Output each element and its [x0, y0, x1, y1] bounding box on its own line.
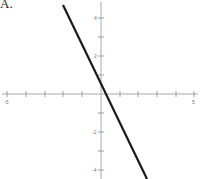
data-line — [63, 5, 147, 179]
x-axis: -5 5 — [2, 91, 198, 105]
y-tick-label: -4 — [92, 167, 97, 173]
y-tick-label: 4 — [94, 15, 97, 21]
y-axis: 4 2 -2 -4 — [92, 2, 104, 179]
line-chart: -5 5 4 2 -2 -4 — [0, 0, 200, 179]
x-tick-label: -5 — [4, 99, 9, 105]
y-tick-label: 2 — [94, 53, 97, 59]
x-tick-label: 5 — [192, 99, 195, 105]
y-tick-label: -2 — [92, 129, 97, 135]
